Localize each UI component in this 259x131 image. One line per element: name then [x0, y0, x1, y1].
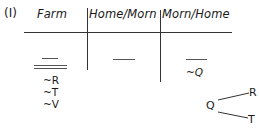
figure-label: (I) [4, 6, 17, 20]
farm-slot-double-bottom [34, 68, 67, 69]
column-header-home-morn: Home/Morn [89, 7, 157, 21]
column-header-morn-home: Morn/Home [162, 7, 230, 21]
column-divider-1 [87, 8, 88, 70]
tree-branch-lines [200, 85, 259, 131]
farm-slot-double-top [34, 65, 67, 66]
column-divider-2 [160, 10, 161, 82]
morn-home-annotation-not-q: ~Q [186, 66, 203, 78]
farm-slot-single [42, 58, 58, 59]
farm-annotation-not-t: ~T [43, 86, 58, 98]
home-morn-slot [113, 59, 135, 60]
farm-annotation-not-v: ~V [43, 98, 59, 110]
morn-home-slot [186, 59, 207, 60]
header-divider [24, 32, 232, 33]
farm-annotation-not-r: ~R [43, 74, 59, 86]
column-header-farm: Farm [37, 7, 67, 21]
